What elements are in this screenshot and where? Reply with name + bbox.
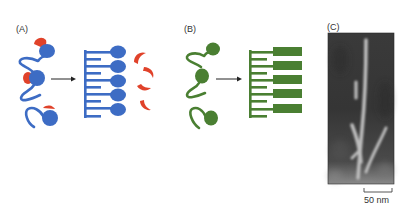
figure-canvas [0, 0, 413, 218]
aggregate-unit [249, 61, 302, 75]
released-red-partners [134, 52, 153, 110]
green-monomer [187, 69, 209, 98]
red-partner [43, 106, 55, 109]
green-monomer [190, 108, 218, 128]
electron-micrograph [328, 33, 394, 184]
aggregate-unit [84, 89, 126, 103]
blue-monomer [21, 70, 45, 100]
aggregate-unit [249, 89, 302, 103]
aggregate-unit [84, 103, 126, 118]
blue-monomer [26, 106, 58, 127]
aggregate-unit [249, 47, 302, 61]
aggregate-unit [249, 104, 302, 118]
panel-a-aggregate [84, 46, 126, 119]
green-monomer [187, 43, 220, 68]
aggregate-unit [249, 75, 302, 89]
scale-bar [364, 188, 392, 192]
panel-b-monomers [187, 43, 220, 129]
reaction-arrow-b [216, 77, 242, 82]
panel-b-aggregate [249, 47, 302, 118]
panel-a-monomers [20, 38, 58, 127]
scale-bar-label: 50 nm [364, 195, 389, 205]
aggregate-unit [84, 60, 126, 75]
blue-monomer [20, 38, 55, 73]
aggregate-unit [84, 46, 126, 61]
reaction-arrow-a [51, 77, 76, 82]
aggregate-unit [84, 75, 126, 89]
